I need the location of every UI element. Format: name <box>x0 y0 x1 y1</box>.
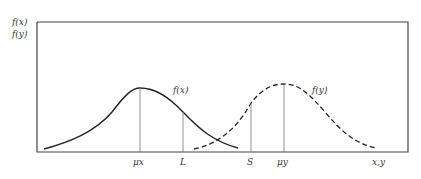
marker-label-mu-x: μx <box>133 157 144 167</box>
curve-f-x <box>44 88 238 149</box>
curve-label-fy: f(y) <box>311 85 328 95</box>
marker-label-mu-y: μy <box>277 157 289 167</box>
curve-label-fx: f(x) <box>172 85 189 95</box>
marker-label-s: S <box>247 157 253 167</box>
y-axis-label-fy: f(y) <box>11 29 28 39</box>
plot-frame <box>37 22 408 152</box>
curve-f-y <box>194 84 377 149</box>
marker-label-l: L <box>179 157 186 167</box>
x-axis-label: x,y <box>372 157 386 167</box>
distribution-diagram: f(x) f(y) f(x) f(y) μx L S μy x,y <box>0 0 421 179</box>
y-axis-label-fx: f(x) <box>11 17 28 27</box>
